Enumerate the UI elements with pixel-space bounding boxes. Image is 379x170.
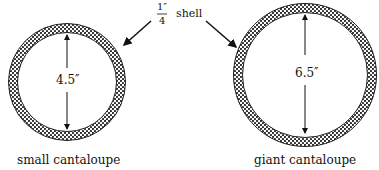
shell-fraction-numerator: 1″: [157, 1, 167, 12]
giant-diameter-label: 6.5″: [295, 66, 319, 80]
small-diameter-label: 4.5″: [56, 73, 80, 87]
shell-arrow-left: [124, 21, 151, 45]
giant-caption: giant cantaloupe: [254, 153, 356, 167]
small-caption: small cantaloupe: [17, 153, 120, 167]
shell-fraction-denominator: 4: [159, 15, 165, 26]
shell-label: shell: [176, 7, 202, 20]
shell-arrow-right: [206, 21, 236, 47]
